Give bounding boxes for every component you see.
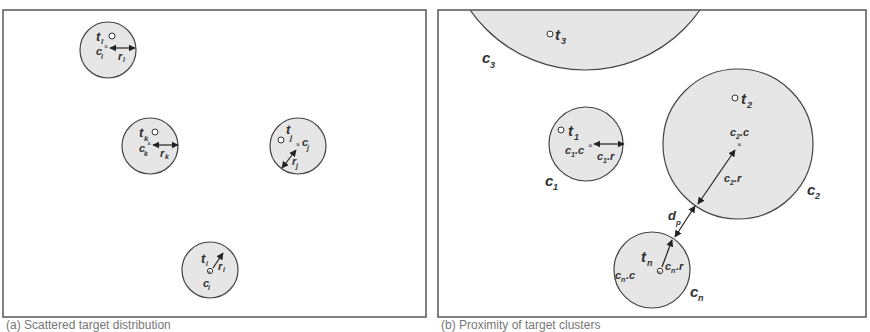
svg-text:.r: .r: [734, 172, 742, 184]
svg-text:.c: .c: [626, 269, 635, 281]
svg-text:.r: .r: [676, 260, 684, 272]
svg-text:n: n: [621, 276, 625, 283]
svg-text:.c: .c: [575, 144, 584, 156]
panel-a: t l c l × r l t k c k × r k t j: [3, 10, 426, 317]
cluster-l: t l c l × r l: [80, 22, 136, 78]
target-marker: [109, 33, 115, 39]
panel-b: t 3 c 3 t 1 c 1 .c × c 1 .r c 1: [438, 0, 866, 317]
cluster-i: t i × r i c i: [182, 242, 238, 298]
svg-text:2: 2: [746, 100, 752, 110]
caption-panel-b: (b) Proximity of target clusters: [441, 318, 600, 332]
svg-text:×: ×: [296, 141, 300, 148]
svg-text:3: 3: [490, 60, 495, 70]
svg-text:1: 1: [574, 132, 579, 142]
caption-panel-a: (a) Scattered target distribution: [6, 318, 171, 332]
svg-text:p: p: [675, 218, 681, 227]
svg-text:n: n: [698, 293, 704, 303]
svg-text:×: ×: [208, 269, 212, 275]
svg-text:n: n: [647, 258, 653, 268]
svg-text:×: ×: [147, 140, 151, 147]
svg-text:×: ×: [737, 140, 742, 149]
cluster-k: t k c k × r k: [122, 118, 178, 174]
svg-text:×: ×: [658, 269, 662, 275]
svg-text:×: ×: [588, 141, 593, 150]
svg-text:.c: .c: [740, 126, 749, 138]
svg-text:3: 3: [561, 36, 566, 46]
svg-text:×: ×: [104, 43, 108, 50]
svg-text:2: 2: [814, 191, 820, 201]
cluster-j: t j × c j r j: [270, 118, 326, 174]
svg-text:1: 1: [553, 182, 558, 192]
svg-text:.r: .r: [607, 150, 615, 162]
svg-text:n: n: [671, 267, 675, 274]
